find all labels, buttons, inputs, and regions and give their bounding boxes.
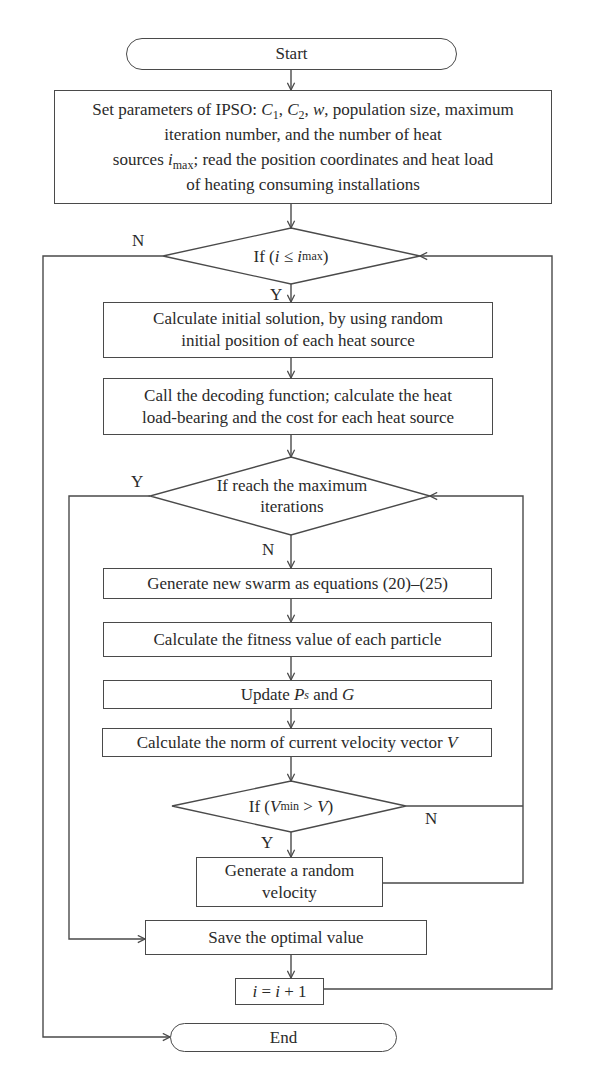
- condition-velocity-label: If (Vmin > V): [210, 794, 372, 818]
- cond-v-yes-label: Y: [261, 834, 273, 852]
- end-label: End: [270, 1027, 297, 1049]
- cond-i-no-label: N: [132, 232, 144, 250]
- random-velocity-box: Generate a random velocity: [196, 857, 383, 907]
- increment-box: i = i + 1: [235, 978, 324, 1005]
- cond-v-no-label: N: [425, 810, 437, 828]
- cond-iter-no-label: N: [262, 541, 274, 559]
- decoding-function-box: Call the decoding function; calculate th…: [103, 378, 493, 435]
- set-parameters-line-3: sources imax; read the position coordina…: [113, 147, 493, 172]
- set-parameters-line-4: of heating consuming installations: [186, 172, 420, 197]
- set-parameters-line-1: Set parameters of IPSO: C1, C2, w, popul…: [92, 97, 513, 122]
- velocity-norm-box: Calculate the norm of current velocity v…: [102, 728, 492, 757]
- generate-swarm-box: Generate new swarm as equations (20)–(25…: [103, 568, 492, 599]
- start-label: Start: [275, 43, 307, 65]
- update-box: Update Ps and G: [103, 680, 492, 709]
- condition-iterations-label: If reach the maximum iterations: [190, 474, 394, 518]
- end-terminal: End: [170, 1023, 397, 1052]
- set-parameters-box: Set parameters of IPSO: C1, C2, w, popul…: [54, 90, 552, 204]
- save-optimal-box: Save the optimal value: [145, 920, 427, 955]
- set-parameters-line-2: iteration number, and the number of heat: [164, 122, 441, 147]
- edge-cond-iter-yes-to-save: [69, 496, 150, 939]
- start-terminal: Start: [126, 38, 457, 70]
- fitness-box: Calculate the fitness value of each part…: [103, 622, 492, 657]
- cond-iter-yes-label: Y: [131, 473, 143, 491]
- cond-i-yes-label: Y: [270, 286, 282, 304]
- condition-i-label: If (i ≤ imax): [200, 244, 382, 268]
- initial-solution-box: Calculate initial solution, by using ran…: [103, 302, 493, 358]
